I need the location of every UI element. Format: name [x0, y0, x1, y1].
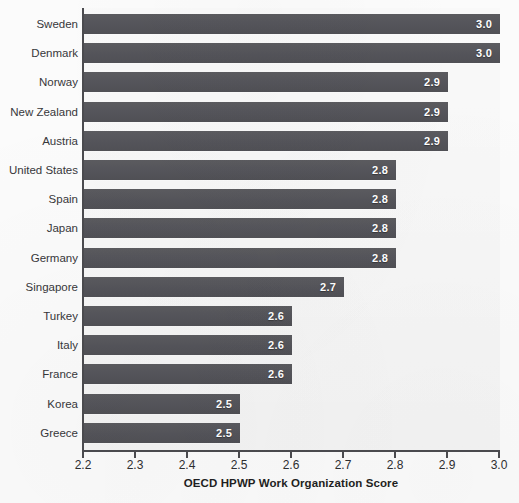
category-label: New Zealand	[4, 102, 78, 122]
bar-value-label: 2.6	[84, 306, 284, 326]
x-tick-label: 2.4	[167, 458, 207, 472]
category-label: Austria	[4, 131, 78, 151]
bar-value-label: 2.9	[84, 131, 440, 151]
x-tick-label: 2.6	[271, 458, 311, 472]
bar-row: 2.6	[84, 335, 500, 355]
bar-value-label: 3.0	[84, 14, 492, 34]
bar-row: 2.9	[84, 72, 500, 92]
bar-row: 2.8	[84, 160, 500, 180]
bar-value-label: 2.8	[84, 160, 388, 180]
category-label: Denmark	[4, 43, 78, 63]
bar-value-label: 2.8	[84, 218, 388, 238]
category-label: Japan	[4, 218, 78, 238]
category-label: United States	[4, 160, 78, 180]
plot-area: 3.03.02.92.92.92.82.82.82.82.72.62.62.62…	[82, 8, 500, 452]
x-axis-title: OECD HPWP Work Organization Score	[82, 477, 500, 489]
category-label: Korea	[4, 394, 78, 414]
bar-row: 3.0	[84, 43, 500, 63]
bar-row: 2.6	[84, 306, 500, 326]
bar-row: 2.8	[84, 248, 500, 268]
bar-row: 2.5	[84, 394, 500, 414]
category-label: Singapore	[4, 277, 78, 297]
bar-row: 3.0	[84, 14, 500, 34]
bar-row: 2.9	[84, 131, 500, 151]
category-label: Spain	[4, 189, 78, 209]
bar-value-label: 3.0	[84, 43, 492, 63]
category-label: Italy	[4, 335, 78, 355]
category-label: Norway	[4, 72, 78, 92]
x-tick-label: 2.8	[375, 458, 415, 472]
bar-value-label: 2.7	[84, 277, 336, 297]
category-label: Germany	[4, 248, 78, 268]
x-tick-label: 2.2	[63, 458, 103, 472]
bar-value-label: 2.8	[84, 189, 388, 209]
x-tick-label: 3.0	[479, 458, 519, 472]
category-label: Turkey	[4, 306, 78, 326]
bar-row: 2.9	[84, 102, 500, 122]
bar-value-label: 2.6	[84, 335, 284, 355]
bar-value-label: 2.5	[84, 394, 232, 414]
x-axis: 2.22.32.42.52.62.72.82.93.0	[82, 452, 500, 474]
bar-value-label: 2.5	[84, 423, 232, 443]
bar-row: 2.6	[84, 364, 500, 384]
x-tick-label: 2.5	[219, 458, 259, 472]
chart-page: SwedenDenmarkNorwayNew ZealandAustriaUni…	[0, 0, 519, 503]
bar-row: 2.5	[84, 423, 500, 443]
category-axis: SwedenDenmarkNorwayNew ZealandAustriaUni…	[0, 8, 78, 450]
bar-row: 2.8	[84, 218, 500, 238]
category-label: France	[4, 364, 78, 384]
bar-value-label: 2.6	[84, 364, 284, 384]
x-tick-label: 2.3	[115, 458, 155, 472]
bar-row: 2.8	[84, 189, 500, 209]
category-label: Sweden	[4, 14, 78, 34]
bar-value-label: 2.8	[84, 248, 388, 268]
bar-row: 2.7	[84, 277, 500, 297]
category-label: Greece	[4, 423, 78, 443]
bar-value-label: 2.9	[84, 102, 440, 122]
x-tick-label: 2.9	[427, 458, 467, 472]
x-tick-label: 2.7	[323, 458, 363, 472]
bar-value-label: 2.9	[84, 72, 440, 92]
